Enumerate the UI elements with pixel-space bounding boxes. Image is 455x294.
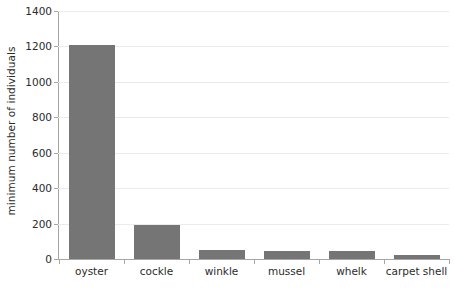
y-axis-tick-label: 600 (32, 147, 52, 159)
y-axis-tick-label: 0 (45, 253, 52, 265)
y-axis-tick-mark (54, 82, 58, 83)
bar-cockle[interactable] (134, 225, 180, 259)
y-axis-tick-mark (54, 188, 58, 189)
x-axis-tick-mark (59, 259, 60, 264)
x-axis-tick-mark (319, 259, 320, 264)
y-axis-title-label: minimum number of individuals (5, 47, 17, 216)
y-axis-tick-mark (54, 153, 58, 154)
bar-slot (319, 11, 384, 259)
bar-slot (189, 11, 254, 259)
y-axis-tick-mark (54, 46, 58, 47)
x-axis-tick-label: carpet shell (386, 265, 448, 277)
x-axis-tick-labels: oystercocklewinklemusselwhelkcarpet shel… (58, 265, 449, 285)
y-axis-tick-mark (54, 259, 58, 260)
x-axis-tick-mark (449, 259, 450, 264)
bar-slot (384, 11, 449, 259)
y-axis-tick-labels: 0200400600800100012001400 (20, 0, 58, 262)
bar-carpet-shell[interactable] (394, 255, 440, 259)
y-axis-title: minimum number of individuals (0, 0, 22, 262)
y-axis-tick-label: 200 (32, 218, 52, 230)
y-axis-tick-mark (54, 117, 58, 118)
y-axis-tick-label: 1000 (25, 76, 52, 88)
bar-slot (254, 11, 319, 259)
y-axis-tick-mark (54, 224, 58, 225)
x-axis-tick-label: whelk (336, 265, 367, 277)
bar-whelk[interactable] (329, 251, 375, 259)
plot-area (58, 11, 449, 259)
x-axis-tick-label: cockle (140, 265, 173, 277)
x-axis-tick-label: winkle (205, 265, 239, 277)
x-axis-tick-mark (124, 259, 125, 264)
y-axis-tick-label: 800 (32, 111, 52, 123)
bar-slot (124, 11, 189, 259)
bar-oyster[interactable] (69, 45, 115, 259)
x-axis-tick-mark (189, 259, 190, 264)
bar-winkle[interactable] (199, 250, 245, 259)
y-axis-tick-label: 1400 (25, 5, 52, 17)
bar-chart: minimum number of individuals 0200400600… (0, 0, 455, 294)
y-axis-tick-mark (54, 11, 58, 12)
bar-slot (59, 11, 124, 259)
y-axis-tick-label: 400 (32, 182, 52, 194)
x-axis-tick-mark (384, 259, 385, 264)
x-axis-tick-mark (254, 259, 255, 264)
bar-mussel[interactable] (264, 251, 310, 259)
y-axis-tick-label: 1200 (25, 40, 52, 52)
bars (59, 11, 449, 259)
x-axis-tick-label: mussel (268, 265, 305, 277)
x-axis-tick-label: oyster (75, 265, 108, 277)
